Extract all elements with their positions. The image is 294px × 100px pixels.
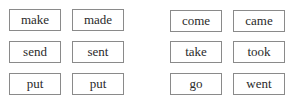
- word-box-past: took: [233, 41, 285, 63]
- word-box-past: came: [233, 10, 285, 32]
- word-box-present: send: [9, 41, 61, 63]
- word-box-present: take: [170, 41, 222, 63]
- word-box-past: put: [72, 73, 124, 95]
- word-box-present: go: [170, 73, 222, 95]
- word-box-present: make: [9, 9, 61, 31]
- word-box-past: made: [72, 9, 124, 31]
- word-box-present: put: [9, 73, 61, 95]
- word-box-present: come: [170, 10, 222, 32]
- word-box-past: sent: [72, 41, 124, 63]
- word-box-past: went: [233, 73, 285, 95]
